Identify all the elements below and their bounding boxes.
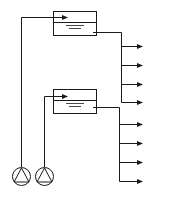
distribution-diagram: [0, 0, 172, 200]
pump-2-icon: [36, 168, 54, 186]
upper-outlet-trunk: [93, 33, 122, 103]
pump-1-icon: [13, 168, 31, 186]
lower-tank: [54, 90, 97, 114]
lower-outlet-trunk: [93, 108, 120, 182]
upper-tank: [54, 12, 97, 36]
